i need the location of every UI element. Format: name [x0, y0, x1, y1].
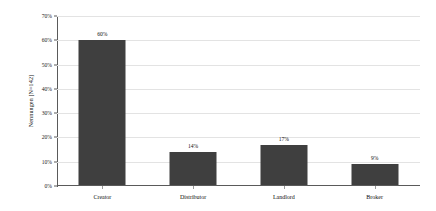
y-tick-label: 0% — [45, 183, 52, 189]
x-tick-label: Distributor — [180, 194, 206, 201]
y-tick-label: 20% — [42, 134, 52, 140]
bar-chart: Nennungen [N=142] 0%10%20%30%40%50%60%70… — [0, 0, 436, 211]
x-tick-mark — [102, 186, 103, 189]
bar-group: 17%Landlord — [239, 16, 330, 186]
x-tick-mark — [284, 186, 285, 189]
x-tick-label: Landlord — [273, 194, 295, 201]
bar-group: 14%Distributor — [148, 16, 239, 186]
bar-group: 9%Broker — [329, 16, 420, 186]
y-tick-label: 30% — [42, 110, 52, 116]
bar-value-label: 60% — [97, 31, 107, 38]
bar-group: 60%Creator — [57, 16, 148, 186]
y-tick-label: 40% — [42, 86, 52, 92]
bar-value-label: 9% — [371, 155, 378, 162]
bar — [170, 152, 217, 186]
x-tick-mark — [375, 186, 376, 189]
y-tick-label: 50% — [42, 62, 52, 68]
bar — [351, 164, 398, 186]
bar-value-label: 14% — [188, 143, 198, 150]
y-tick-label: 10% — [42, 159, 52, 165]
bar — [260, 145, 307, 186]
y-tick-label: 60% — [42, 37, 52, 43]
y-tick-label: 70% — [42, 13, 52, 19]
x-axis-line — [57, 185, 420, 186]
bar-value-label: 17% — [279, 136, 289, 143]
x-tick-mark — [193, 186, 194, 189]
x-tick-label: Creator — [93, 194, 111, 201]
y-axis-title: Nennungen [N=142] — [26, 16, 37, 186]
bar — [79, 40, 126, 186]
x-tick-label: Broker — [366, 194, 383, 201]
plot-area: 0%10%20%30%40%50%60%70% 60%Creator14%Dis… — [57, 16, 420, 186]
